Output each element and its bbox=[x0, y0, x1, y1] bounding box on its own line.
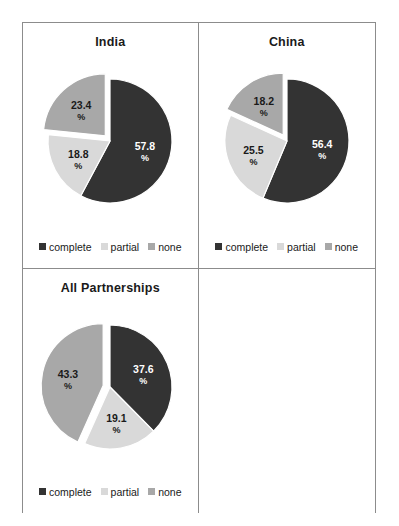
legend-item-partial: partial bbox=[277, 242, 316, 253]
pie-slice-unit-partial: % bbox=[113, 425, 121, 435]
legend-swatch-complete bbox=[215, 243, 222, 250]
pie-slice-unit-partial: % bbox=[249, 157, 257, 167]
pie-slice-unit-none: % bbox=[77, 112, 85, 122]
legend-label-complete: complete bbox=[225, 242, 268, 253]
pie-slice-unit-complete: % bbox=[140, 376, 148, 386]
panel-china: China 56.4%25.5%18.2% complete partial n… bbox=[199, 23, 376, 268]
legend-item-none: none bbox=[325, 242, 358, 253]
legend-label-complete: complete bbox=[49, 242, 92, 253]
pie-slice-value-complete: 37.6 bbox=[133, 363, 154, 375]
panel-all-partnerships: All Partnerships 37.6%19.1%43.3% complet… bbox=[23, 269, 199, 513]
legend-swatch-complete bbox=[39, 243, 46, 250]
legend-label-partial: partial bbox=[287, 242, 316, 253]
pie-slice-value-none: 23.4 bbox=[71, 99, 92, 111]
legend-item-none: none bbox=[148, 242, 181, 253]
pie-slice-value-partial: 25.5 bbox=[243, 144, 264, 156]
panel-row-top: India 57.8%18.8%23.4% complete partial n… bbox=[23, 23, 375, 269]
legend-swatch-none bbox=[148, 243, 155, 250]
panel-empty bbox=[199, 269, 376, 513]
pie-slice-unit-none: % bbox=[260, 108, 268, 118]
pie-slice-unit-complete: % bbox=[141, 153, 149, 163]
legend-item-partial: partial bbox=[101, 487, 140, 498]
legend-swatch-partial bbox=[101, 243, 108, 250]
legend-item-partial: partial bbox=[101, 242, 140, 253]
panel-title-india: India bbox=[23, 35, 198, 49]
legend-swatch-none bbox=[148, 488, 155, 495]
pie-slice-unit-none: % bbox=[64, 381, 72, 391]
pie-slice-value-none: 18.2 bbox=[253, 95, 274, 107]
legend-item-complete: complete bbox=[39, 487, 92, 498]
pie-slice-unit-partial: % bbox=[75, 161, 83, 171]
figure-frame: India 57.8%18.8%23.4% complete partial n… bbox=[22, 22, 376, 513]
legend-swatch-none bbox=[325, 243, 332, 250]
legend-item-complete: complete bbox=[39, 242, 92, 253]
pie-slice-unit-complete: % bbox=[318, 151, 326, 161]
legend-label-none: none bbox=[158, 242, 181, 253]
legend-item-complete: complete bbox=[215, 242, 268, 253]
legend-label-partial: partial bbox=[111, 242, 140, 253]
legend-label-complete: complete bbox=[49, 487, 92, 498]
legend-china: complete partial none bbox=[199, 242, 376, 253]
pie-slice-value-none: 43.3 bbox=[58, 368, 79, 380]
pie-slice-value-partial: 19.1 bbox=[106, 412, 127, 424]
legend-swatch-partial bbox=[277, 243, 284, 250]
legend-label-none: none bbox=[335, 242, 358, 253]
pie-chart-all-partnerships: 37.6%19.1%43.3% bbox=[23, 307, 198, 467]
panel-title-china: China bbox=[199, 35, 376, 49]
pie-slice-value-complete: 57.8 bbox=[135, 140, 156, 152]
legend-label-none: none bbox=[158, 487, 181, 498]
panel-row-bottom: All Partnerships 37.6%19.1%43.3% complet… bbox=[23, 269, 375, 513]
legend-all-partnerships: complete partial none bbox=[23, 487, 198, 498]
legend-india: complete partial none bbox=[23, 242, 198, 253]
panel-title-all-partnerships: All Partnerships bbox=[23, 281, 198, 295]
pie-svg-china: 56.4%25.5%18.2% bbox=[207, 61, 367, 221]
pie-chart-china: 56.4%25.5%18.2% bbox=[199, 61, 376, 221]
legend-item-none: none bbox=[148, 487, 181, 498]
panel-india: India 57.8%18.8%23.4% complete partial n… bbox=[23, 23, 199, 268]
legend-label-partial: partial bbox=[111, 487, 140, 498]
pie-svg-all-partnerships: 37.6%19.1%43.3% bbox=[30, 307, 190, 467]
pie-chart-india: 57.8%18.8%23.4% bbox=[23, 61, 198, 221]
pie-svg-india: 57.8%18.8%23.4% bbox=[30, 61, 190, 221]
pie-slice-value-complete: 56.4 bbox=[312, 138, 333, 150]
legend-swatch-partial bbox=[101, 488, 108, 495]
pie-slice-value-partial: 18.8 bbox=[68, 148, 89, 160]
legend-swatch-complete bbox=[39, 488, 46, 495]
